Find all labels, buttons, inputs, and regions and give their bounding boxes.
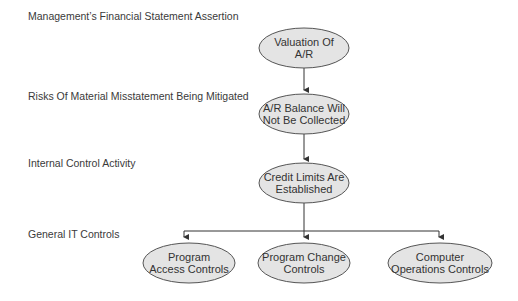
node-risk-text: A/R Balance WillNot Be Collected — [259, 94, 349, 134]
node-assertion-text: Valuation OfA/R — [259, 28, 349, 68]
node-change-controls-text: Program ChangeControls — [258, 243, 350, 283]
node-operations-controls-text: ComputerOperations Controls — [388, 243, 492, 283]
node-access-controls-text: ProgramAccess Controls — [143, 243, 235, 283]
node-control-text: Credit Limits AreEstablished — [259, 163, 349, 203]
